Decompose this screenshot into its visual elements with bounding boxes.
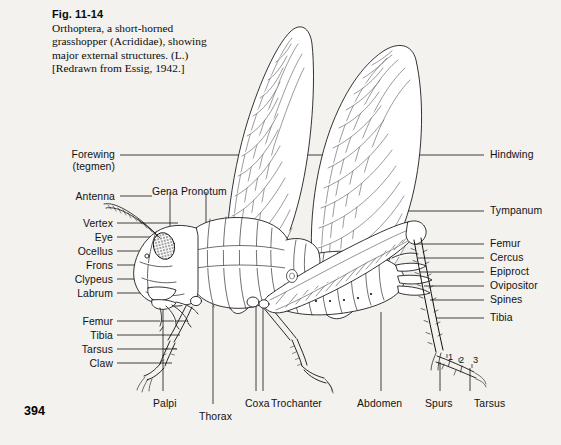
label-abdomen: Abdomen bbox=[357, 398, 402, 409]
label-ovipositor: Ovipositor bbox=[490, 280, 538, 291]
tarsal-segment-number-1: 1 bbox=[448, 352, 453, 362]
label-trochanter: Trochanter bbox=[271, 398, 322, 409]
ocellus-shape bbox=[145, 254, 149, 258]
tibial-spines bbox=[411, 249, 442, 345]
label-coxa: Coxa bbox=[245, 398, 270, 409]
label-vertex: Vertex bbox=[83, 218, 113, 229]
insect-body bbox=[104, 27, 486, 393]
figure-page: Fig. 11-14 Orthoptera, a short-horned gr… bbox=[0, 0, 561, 445]
labrum-shape bbox=[152, 300, 176, 310]
label-claw: Claw bbox=[90, 358, 114, 369]
middleleg-claws bbox=[325, 379, 333, 393]
label-forewing-line1: Forewing bbox=[71, 149, 115, 161]
label-hindwing: Hindwing bbox=[490, 149, 534, 160]
tarsal-segment-number-3: 3 bbox=[473, 355, 478, 365]
label-palpi: Palpi bbox=[153, 398, 177, 409]
page-number: 394 bbox=[24, 404, 45, 418]
label-femur-fore: Femur bbox=[82, 316, 113, 327]
label-thorax: Thorax bbox=[199, 411, 232, 422]
tympanum-inner bbox=[290, 273, 295, 279]
label-pronotum: Pronotum bbox=[181, 186, 227, 197]
antenna-segments bbox=[108, 205, 157, 236]
label-spines: Spines bbox=[490, 294, 522, 305]
label-labrum: Labrum bbox=[77, 288, 113, 299]
tarsal-segment-number-2: 2 bbox=[459, 355, 464, 365]
label-spurs: Spurs bbox=[425, 398, 453, 409]
label-tarsus-hind: Tarsus bbox=[474, 398, 505, 409]
label-gena: Gena bbox=[152, 186, 178, 197]
middleleg-shape bbox=[262, 304, 333, 393]
label-tympanum: Tympanum bbox=[490, 205, 542, 216]
label-tarsus-fore: Tarsus bbox=[82, 344, 113, 355]
label-clypeus: Clypeus bbox=[75, 274, 113, 285]
label-forewing-line2: (tegmen) bbox=[71, 161, 115, 173]
label-tibia-fore: Tibia bbox=[90, 330, 113, 341]
label-eye: Eye bbox=[95, 232, 113, 243]
label-forewing: Forewing(tegmen) bbox=[71, 149, 115, 172]
label-antenna: Antenna bbox=[76, 191, 115, 202]
label-ocellus: Ocellus bbox=[78, 246, 113, 257]
tibial-spurs bbox=[431, 353, 441, 370]
label-femur-hind: Femur bbox=[490, 238, 521, 249]
label-frons: Frons bbox=[86, 260, 113, 271]
hindleg-knee bbox=[406, 221, 426, 244]
label-epiproct: Epiproct bbox=[490, 266, 529, 277]
label-cercus: Cercus bbox=[490, 252, 524, 263]
label-tibia-hind: Tibia bbox=[490, 312, 513, 323]
